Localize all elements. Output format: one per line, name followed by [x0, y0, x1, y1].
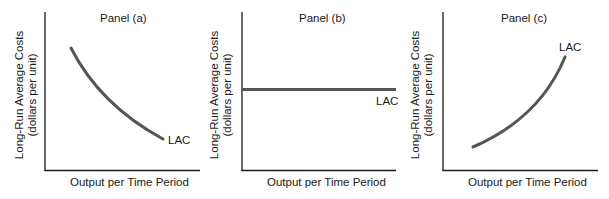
curve-label: LAC [168, 134, 190, 146]
panel-title: Panel (c) [501, 12, 547, 24]
x-axis-label: Output per Time Period [267, 176, 386, 188]
panel-b: Panel (b) LAC Output per Time Period Lon… [200, 0, 405, 199]
y-axis-label: Long-Run Average Costs (dollars per unit… [409, 25, 435, 165]
y-axis-label: Long-Run Average Costs (dollars per unit… [13, 25, 39, 165]
y-axis-label: Long-Run Average Costs (dollars per unit… [208, 25, 234, 165]
panel-title: Panel (b) [299, 12, 346, 24]
panel-title: Panel (a) [100, 12, 147, 24]
lac-curve [473, 57, 565, 147]
panel-a: Panel (a) LAC Output per Time Period Lon… [0, 0, 205, 199]
x-axis-label: Output per Time Period [70, 176, 189, 188]
curve-label: LAC [559, 41, 581, 53]
curve-label: LAC [376, 95, 398, 107]
panel-c: Panel (c) LAC Output per Time Period Lon… [400, 0, 609, 199]
x-axis-label: Output per Time Period [468, 176, 587, 188]
lac-curve [71, 48, 163, 139]
